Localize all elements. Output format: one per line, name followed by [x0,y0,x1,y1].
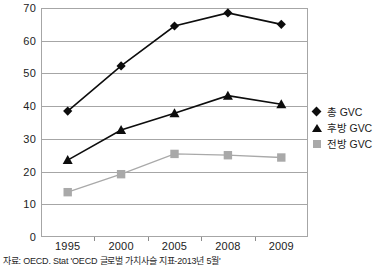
legend-item-forward[interactable]: 전방 GVC [311,136,375,151]
y-tick-label: 50 [23,67,36,79]
x-tick-label: 1995 [55,240,80,252]
x-tick-mark [201,237,202,241]
legend-label: 총 GVC [327,104,362,119]
data-point-square [277,153,285,161]
x-tick-label: 2000 [108,240,133,252]
diamond-marker-icon [311,105,324,118]
series-line [68,154,282,192]
data-point-square [170,150,178,158]
y-axis: 010203040506070 [0,8,36,237]
data-point-diamond [223,8,232,17]
triangle-marker-icon [311,121,324,134]
y-tick-label: 20 [23,166,36,178]
data-point-square [64,188,72,196]
y-tick-label: 40 [23,100,36,112]
square-marker-icon [311,137,324,150]
x-tick-mark [255,237,256,241]
data-point-triangle [223,91,233,100]
x-tick-label: 2009 [269,240,294,252]
legend-item-backward[interactable]: 후방 GVC [311,120,375,135]
y-tick-label: 0 [30,231,36,243]
source-note: 자료: OECD. Stat 'OECD 글로벌 가치사슬 지표-2013년 5… [3,254,221,267]
data-point-square [224,151,232,159]
data-point-triangle [63,155,73,164]
x-tick-label: 2008 [215,240,240,252]
data-point-square [117,170,125,178]
y-tick-label: 70 [23,2,36,14]
series-layer [41,8,308,237]
y-tick-label: 10 [23,198,36,210]
legend-label: 전방 GVC [327,136,372,151]
gvc-line-chart: 010203040506070 19952000200520082009 총 G… [0,0,375,267]
chart-legend: 총 GVC 후방 GVC 전방 GVC [311,104,375,152]
x-tick-mark [94,237,95,241]
data-point-diamond [277,20,286,29]
x-tick-label: 2005 [162,240,187,252]
x-tick-mark [148,237,149,241]
y-tick-label: 30 [23,133,36,145]
y-tick-label: 60 [23,35,36,47]
legend-item-total[interactable]: 총 GVC [311,104,375,119]
legend-label: 후방 GVC [327,120,372,135]
